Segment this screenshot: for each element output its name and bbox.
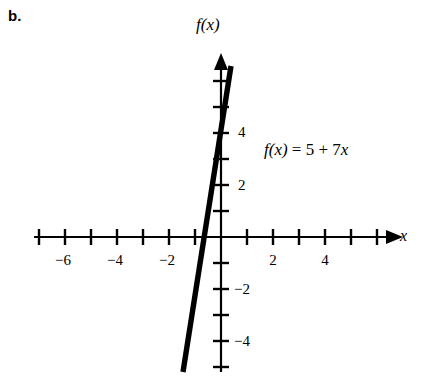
- y-tick-label-minus-4: −4: [234, 334, 250, 349]
- x-tick-label-minus-6: −6: [55, 253, 71, 268]
- equation-lhs: f(x): [264, 140, 288, 159]
- equation-annotation: f(x) = 5 + 7x: [264, 141, 348, 158]
- equation-coefficient: 7: [332, 140, 341, 159]
- x-axis-label: x: [400, 228, 407, 244]
- equation-variable: x: [341, 140, 349, 159]
- part-label: b.: [8, 8, 21, 23]
- y-tick-label-minus-2: −2: [234, 282, 250, 297]
- x-tick-label-4: 4: [321, 253, 329, 268]
- equation-constant: 5: [306, 140, 315, 159]
- function-line: [183, 66, 231, 372]
- y-tick-label-2: 2: [238, 178, 246, 193]
- figure-graph-of-linear-function: b.: [0, 0, 422, 385]
- equation-equals: =: [288, 140, 306, 159]
- y-tick-label-4: 4: [238, 125, 246, 140]
- x-tick-label-2: 2: [269, 253, 277, 268]
- y-axis-arrowhead: [214, 53, 228, 70]
- y-axis-label: f(x): [196, 16, 220, 33]
- x-tick-label-minus-2: −2: [159, 253, 175, 268]
- x-tick-label-minus-4: −4: [107, 253, 123, 268]
- equation-plus: +: [314, 140, 332, 159]
- coordinate-plane-svg: [0, 0, 422, 385]
